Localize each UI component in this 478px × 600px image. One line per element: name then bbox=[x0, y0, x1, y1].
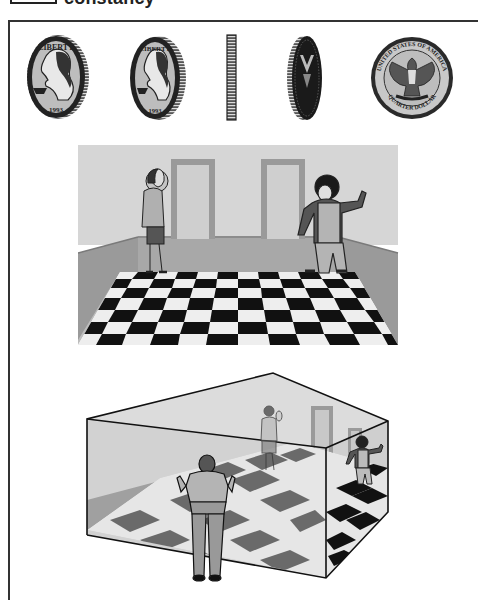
door-left bbox=[171, 159, 215, 239]
coin-reverse-tilted bbox=[287, 36, 322, 120]
coin-date-text: 1993 bbox=[49, 106, 64, 114]
coin-edge-on bbox=[227, 35, 236, 120]
coin-liberty-text: LIBERTY bbox=[38, 43, 74, 52]
checkerboard-floor bbox=[78, 272, 400, 347]
coin-obverse-tilted: LIBERTY 1993 bbox=[130, 36, 186, 120]
back-wall bbox=[78, 145, 398, 245]
coin-reverse-frontal: UNITED STATES OF AMERICA QUARTER DOLLAR bbox=[371, 37, 453, 119]
header-label-box bbox=[10, 0, 57, 4]
svg-text:1993: 1993 bbox=[149, 107, 163, 114]
coin-obverse-frontal: LIBERTY 1993 bbox=[27, 35, 89, 119]
ames-room-panel bbox=[80, 368, 400, 586]
coins-panel: LIBERTY 1993 LIBERTY 1993 UNITED STATES … bbox=[0, 28, 466, 128]
room-scene-panel bbox=[78, 145, 400, 347]
door-right bbox=[261, 159, 305, 239]
svg-text:LIBERTY: LIBERTY bbox=[139, 45, 170, 53]
figure-title: constancy bbox=[64, 0, 155, 9]
figure-header: constancy bbox=[0, 0, 466, 8]
